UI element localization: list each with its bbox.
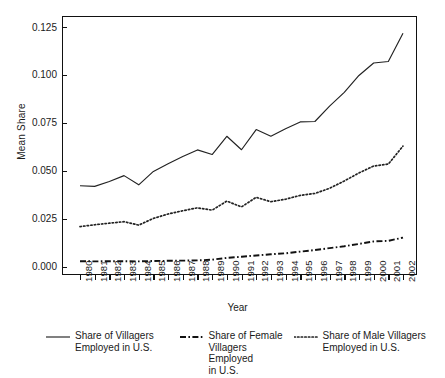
y-tick-label: 0.075 xyxy=(11,118,57,128)
series-line xyxy=(80,146,403,227)
y-tick-mark xyxy=(62,171,67,172)
x-tick-label: 1994 xyxy=(290,260,300,282)
y-tick-mark xyxy=(62,123,67,124)
x-tick-label: 1997 xyxy=(334,260,344,282)
x-tick-label: 2000 xyxy=(378,260,388,282)
x-tick-label: 1981 xyxy=(99,260,109,282)
legend-line-sample xyxy=(180,331,204,342)
y-tick-label: 0.025 xyxy=(11,214,57,224)
x-tick-label: 1984 xyxy=(143,260,153,282)
x-tick-label: 1990 xyxy=(231,260,241,282)
legend-item: Share of Villagers Employed in U.S. xyxy=(46,330,180,353)
x-tick-label: 1996 xyxy=(319,260,329,282)
legend-label: Share of Male Villagers Employed in U.S. xyxy=(323,330,426,353)
x-tick-label: 1991 xyxy=(246,260,256,282)
x-tick-label: 2001 xyxy=(392,260,402,282)
y-tick-label: 0.000 xyxy=(11,262,57,272)
x-tick-label: 1988 xyxy=(201,260,211,282)
y-tick-mark xyxy=(62,219,67,220)
x-tick-label: 1986 xyxy=(172,260,182,282)
x-tick-label: 2002 xyxy=(407,260,417,282)
x-tick-label: 1992 xyxy=(260,260,270,282)
series-line xyxy=(80,33,403,186)
x-tick-label: 1998 xyxy=(348,260,358,282)
x-axis-ticks: 1980198119821983198419851986198719881989… xyxy=(62,277,417,303)
legend-line-sample xyxy=(46,331,70,342)
x-tick-label: 1982 xyxy=(113,260,123,282)
chart-legend: Share of Villagers Employed in U.S.Share… xyxy=(46,330,436,376)
x-tick-label: 1980 xyxy=(84,260,94,282)
y-tick-mark xyxy=(62,267,67,268)
legend-item: Share of Female Villagers Employed in U.… xyxy=(180,330,294,376)
series-line xyxy=(80,238,403,262)
legend-label: Share of Villagers Employed in U.S. xyxy=(75,330,154,353)
x-tick-label: 1987 xyxy=(187,260,197,282)
y-axis-ticks: 0.0000.0250.0500.0750.1000.125 xyxy=(7,16,57,275)
y-tick-label: 0.100 xyxy=(11,70,57,80)
legend-label: Share of Female Villagers Employed in U.… xyxy=(209,330,294,376)
x-tick-label: 1985 xyxy=(157,260,167,282)
chart-figure: Mean Share 0.0000.0250.0500.0750.1000.12… xyxy=(0,0,445,378)
y-tick-mark xyxy=(62,27,67,28)
legend-line-sample xyxy=(294,331,318,342)
x-tick-label: 1989 xyxy=(216,260,226,282)
x-tick-label: 1995 xyxy=(304,260,314,282)
legend-item: Share of Male Villagers Employed in U.S. xyxy=(294,330,436,353)
y-tick-mark xyxy=(62,75,67,76)
y-tick-label: 0.125 xyxy=(11,23,57,33)
x-tick-label: 1999 xyxy=(363,260,373,282)
x-tick-label: 1983 xyxy=(128,260,138,282)
x-axis-title: Year xyxy=(60,302,415,313)
data-series-layer xyxy=(62,16,417,275)
x-tick-label: 1993 xyxy=(275,260,285,282)
y-tick-label: 0.050 xyxy=(11,166,57,176)
